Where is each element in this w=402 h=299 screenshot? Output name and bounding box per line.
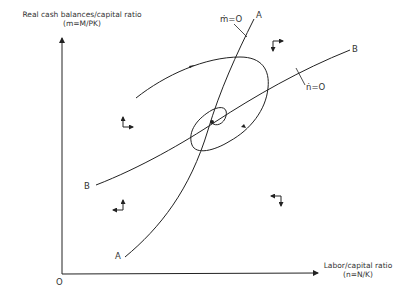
x-axis-label: Labor/capital ratio (n=N/K): [316, 261, 400, 279]
x-axis-title: Labor/capital ratio: [316, 261, 400, 270]
mdot-zero-label: ṁ=O: [220, 14, 242, 24]
curve-b-bottom-label: B: [84, 181, 90, 191]
y-axis-label: Real cash balances/capital ratio (m=M/PK…: [2, 10, 162, 28]
equilibrium-point: [210, 120, 214, 124]
curve-b-top-label: B: [352, 44, 358, 54]
direction-arrows-lower-right: [271, 196, 281, 206]
mdot-leader: [234, 24, 247, 37]
curve-a-bottom-label: A: [115, 251, 121, 261]
trajectory-arrow-2: [241, 124, 246, 128]
ndot-zero-label: ṅ=O: [306, 82, 325, 92]
direction-arrows-lower-left: [113, 200, 123, 210]
trajectory-arrow-1: [189, 65, 195, 68]
y-axis-title: Real cash balances/capital ratio: [2, 10, 162, 19]
direction-arrows-upper-left: [123, 117, 133, 127]
x-axis: [62, 273, 318, 274]
curve-a-top-label: A: [256, 10, 262, 20]
phase-diagram: [0, 0, 402, 299]
curve-b-ndot-zero: [96, 50, 350, 185]
direction-arrows-upper-right: [273, 41, 283, 51]
spiral-trajectory: [136, 57, 268, 151]
x-axis-formula: (n=N/K): [316, 270, 400, 279]
origin-label: O: [56, 277, 63, 287]
y-axis-formula: (m=M/PK): [2, 19, 162, 28]
